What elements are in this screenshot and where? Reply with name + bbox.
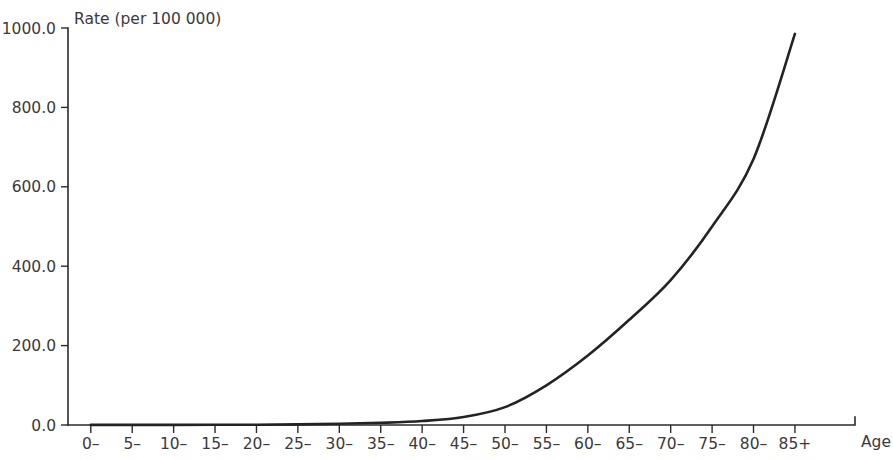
x-tick-label: 20– [243, 435, 270, 453]
x-tick-label: 30– [326, 435, 353, 453]
chart-container: 0.0200.0400.0600.0800.01000.0 0–5–10–15–… [0, 0, 893, 460]
x-tick-label: 80– [740, 435, 767, 453]
x-tick-label: 50– [491, 435, 518, 453]
y-axis: 0.0200.0400.0600.0800.01000.0 [2, 20, 68, 435]
x-tick-label: 25– [284, 435, 311, 453]
x-tick-label: 65– [616, 435, 643, 453]
y-tick-label: 400.0 [12, 258, 56, 276]
chart-canvas: 0.0200.0400.0600.0800.01000.0 0–5–10–15–… [0, 0, 893, 460]
x-tick-label: 10– [160, 435, 187, 453]
y-tick-label: 600.0 [12, 178, 56, 196]
x-tick-label: 35– [367, 435, 394, 453]
rate-curve [91, 34, 795, 425]
y-tick-label: 0.0 [31, 417, 56, 435]
x-tick-label: 0– [82, 435, 100, 453]
y-axis-title: Rate (per 100 000) [74, 10, 221, 28]
y-axis-tick-labels: 0.0200.0400.0600.0800.01000.0 [2, 20, 56, 435]
x-tick-label: 55– [533, 435, 560, 453]
x-tick-label: 85+ [779, 435, 812, 453]
x-tick-label: 60– [574, 435, 601, 453]
x-axis: 0–5–10–15–20–25–30–35–40–45–50–55–60–65–… [68, 417, 855, 453]
y-axis-ticks [61, 28, 68, 425]
plot-area: 0.0200.0400.0600.0800.01000.0 0–5–10–15–… [2, 20, 855, 454]
x-tick-label: 15– [201, 435, 228, 453]
x-tick-label: 75– [698, 435, 725, 453]
x-axis-title: Age [861, 433, 891, 451]
x-axis-ticks [91, 425, 795, 433]
y-tick-label: 800.0 [12, 99, 56, 117]
y-tick-label: 200.0 [12, 337, 56, 355]
x-axis-tick-labels: 0–5–10–15–20–25–30–35–40–45–50–55–60–65–… [82, 435, 811, 453]
x-tick-label: 70– [657, 435, 684, 453]
x-tick-label: 5– [123, 435, 141, 453]
x-tick-label: 40– [408, 435, 435, 453]
x-tick-label: 45– [450, 435, 477, 453]
y-tick-label: 1000.0 [2, 20, 56, 38]
